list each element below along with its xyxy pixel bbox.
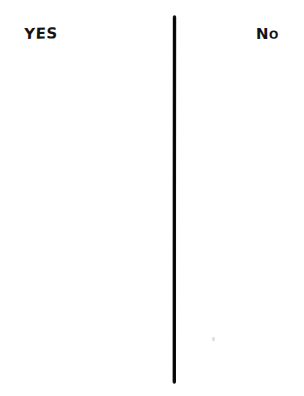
worksheet-page: YES No (0, 0, 304, 396)
column-region-no[interactable] (178, 50, 304, 382)
vertical-divider-line (171, 16, 178, 383)
column-heading-yes: YES (24, 26, 58, 42)
column-region-yes[interactable] (0, 50, 171, 382)
column-heading-no: No (256, 27, 279, 42)
